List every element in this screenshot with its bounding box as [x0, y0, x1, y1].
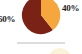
pie-label-40: 40%	[62, 4, 79, 13]
figure-divider	[17, 42, 65, 44]
pie-chart-figure: 60% 40%	[0, 0, 82, 40]
pie-chart-svg	[21, 0, 61, 35]
pie-label-60: 60%	[0, 15, 15, 24]
screenshot-root: 60% 40%	[0, 0, 82, 54]
next-figure-peek	[49, 48, 71, 54]
